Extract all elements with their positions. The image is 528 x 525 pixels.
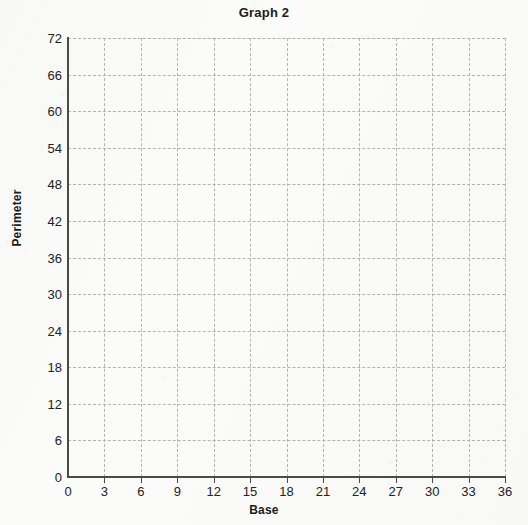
gridline-vertical [141,38,142,477]
x-tick-mark [250,478,251,483]
x-tick-label: 3 [84,484,124,499]
gridline-vertical [323,38,324,477]
gridline-vertical [505,38,506,477]
x-tick-mark [214,478,215,483]
gridline-horizontal [68,404,505,405]
gridline-horizontal [68,367,505,368]
y-tick-label: 66 [4,67,62,82]
y-tick-label: 6 [4,433,62,448]
x-tick-mark [396,478,397,483]
chart-title: Graph 2 [0,5,528,20]
x-axis-title: Base [0,503,528,517]
x-tick-label: 12 [194,484,234,499]
x-tick-label: 33 [449,484,489,499]
gridline-vertical [396,38,397,477]
gridline-vertical [177,38,178,477]
gridline-horizontal [68,258,505,259]
gridline-horizontal [68,221,505,222]
y-tick-label: 30 [4,287,62,302]
gridline-right-border [505,38,506,477]
y-axis-spine [67,37,69,478]
x-tick-mark [432,478,433,483]
x-tick-label: 21 [303,484,343,499]
x-tick-label: 18 [267,484,307,499]
y-tick-label: 12 [4,396,62,411]
y-axis-title: Perimeter [10,189,24,246]
x-tick-label: 30 [412,484,452,499]
x-tick-label: 15 [230,484,270,499]
x-tick-label: 24 [339,484,379,499]
gridline-vertical [104,38,105,477]
x-tick-label: 6 [121,484,161,499]
y-tick-label: 72 [4,31,62,46]
x-tick-mark [104,478,105,483]
gridline-horizontal [68,111,505,112]
gridline-vertical [214,38,215,477]
gridline-vertical [287,38,288,477]
x-tick-mark [141,478,142,483]
gridline-vertical [469,38,470,477]
x-tick-label: 36 [485,484,525,499]
gridline-horizontal [68,75,505,76]
x-tick-mark [177,478,178,483]
x-tick-mark [359,478,360,483]
gridline-top-border [68,38,505,39]
x-tick-label: 27 [376,484,416,499]
gridline-vertical [359,38,360,477]
y-tick-label: 0 [4,470,62,485]
y-axis-tick-labels: 061218243036424854606672 [0,0,62,525]
x-tick-mark [505,478,506,483]
x-tick-mark [469,478,470,483]
y-tick-label: 54 [4,140,62,155]
gridline-horizontal [68,38,505,39]
gridline-horizontal [68,148,505,149]
graph-figure: Graph 2 061218243036424854606672 0369121… [0,0,528,525]
y-tick-label: 18 [4,360,62,375]
x-tick-label: 9 [157,484,197,499]
plot-area [68,38,505,477]
y-tick-label: 24 [4,323,62,338]
gridline-vertical [250,38,251,477]
y-tick-label: 36 [4,250,62,265]
gridline-horizontal [68,440,505,441]
gridline-horizontal [68,184,505,185]
gridline-horizontal [68,331,505,332]
x-tick-mark [287,478,288,483]
gridline-horizontal [68,294,505,295]
gridline-vertical [432,38,433,477]
y-tick-label: 60 [4,104,62,119]
x-tick-mark [323,478,324,483]
x-tick-label: 0 [48,484,88,499]
